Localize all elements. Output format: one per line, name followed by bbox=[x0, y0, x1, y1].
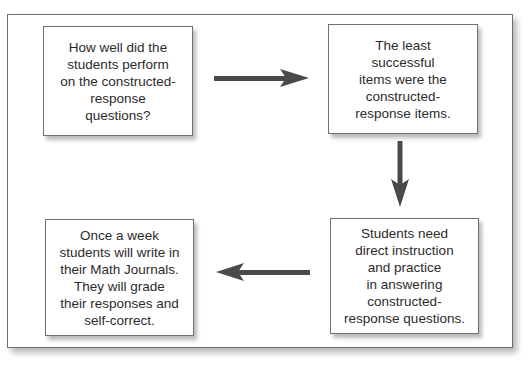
flow-box-action: Once a week students will write in their… bbox=[45, 219, 194, 336]
arrow-left-icon bbox=[216, 262, 311, 282]
flow-box-finding: The least successful items were the cons… bbox=[328, 24, 478, 134]
arrow-down-icon bbox=[390, 141, 410, 208]
flow-box-need: Students need direct instruction and pra… bbox=[330, 218, 479, 334]
flow-box-question: How well did the students perform on the… bbox=[43, 26, 193, 136]
arrow-right-icon bbox=[214, 68, 310, 88]
